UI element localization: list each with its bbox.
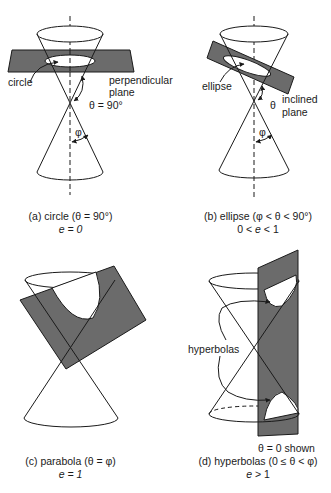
perpendicular-label: perpendicular	[109, 74, 173, 86]
ellipse-label: ellipse	[202, 80, 232, 92]
inclined-label: inclined	[282, 93, 318, 105]
cone-generator	[220, 34, 289, 170]
caption-d-title: (d) hyperbolas (0 ≤ θ < φ)	[185, 455, 331, 468]
caption-a-title: (a) circle (θ = 90°)	[0, 210, 141, 223]
panel-c-parabola-diagram	[20, 266, 146, 427]
theta-zero-note: θ = 0 shown	[258, 442, 315, 454]
caption-c-title: (c) parabola (θ = φ)	[0, 455, 141, 468]
theta-90-label: θ = 90°	[89, 99, 123, 111]
plane-label: plane	[282, 106, 308, 118]
caption-d-eccentricity: e > 1	[185, 468, 331, 481]
caption-a-eccentricity: e = 0	[0, 223, 141, 236]
lower-cone-rim	[24, 418, 118, 427]
hyperbolas-label: hyperbolas	[188, 343, 239, 355]
upper-cone-rim	[37, 26, 103, 42]
caption-b-title: (b) ellipse (φ < θ < 90°)	[185, 210, 331, 223]
caption-c-eccentricity: e = 1	[0, 468, 141, 481]
circle-label: circle	[8, 76, 33, 88]
panel-b-ellipse-diagram	[207, 16, 294, 198]
upper-cone-rim	[220, 26, 288, 42]
caption-b-eccentricity: 0 < e < 1	[185, 223, 331, 236]
theta-label: θ	[270, 99, 276, 111]
plane-label: plane	[109, 86, 135, 98]
phi-label: φ	[259, 126, 266, 138]
phi-label: φ	[75, 126, 82, 138]
